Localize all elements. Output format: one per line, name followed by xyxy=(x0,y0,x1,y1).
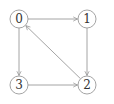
node-label: 3 xyxy=(15,78,23,92)
directed-graph: 0123 xyxy=(0,0,114,104)
edge-2-to-0 xyxy=(26,26,81,79)
node-3: 3 xyxy=(10,76,28,94)
edges-group xyxy=(19,19,87,85)
node-label: 0 xyxy=(15,12,23,26)
node-1: 1 xyxy=(78,10,96,28)
node-label: 1 xyxy=(83,12,91,26)
node-0: 0 xyxy=(10,10,28,28)
node-label: 2 xyxy=(83,78,91,92)
node-2: 2 xyxy=(78,76,96,94)
